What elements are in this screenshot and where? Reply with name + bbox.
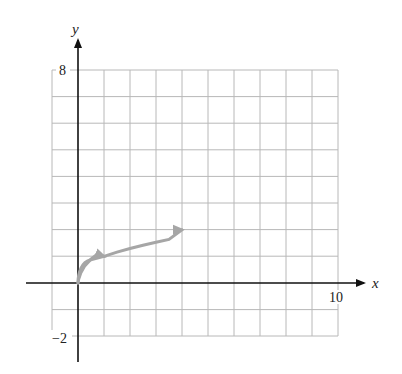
sqrt-function-overlay [0, 0, 402, 374]
